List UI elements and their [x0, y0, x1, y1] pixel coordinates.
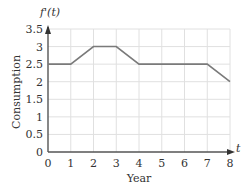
axes: [45, 25, 235, 155]
x-axis-label: Year: [126, 172, 152, 185]
y-tick-label: 0.5: [26, 128, 44, 141]
x-axis-variable-label: t: [236, 142, 241, 155]
y-tick-label: 1: [36, 111, 43, 124]
x-tick-label: 6: [181, 157, 188, 170]
x-tick-label: 8: [227, 157, 234, 170]
y-tick-label: 1.5: [26, 93, 44, 106]
x-tick-label: 0: [45, 157, 52, 170]
x-tick-label: 5: [158, 157, 165, 170]
y-tick-labels: 00.511.522.533.5: [26, 23, 44, 159]
y-tick-label: 0: [36, 146, 43, 159]
line-chart: 00.511.522.533.5 012345678 Consumption Y…: [0, 0, 248, 185]
y-tick-label: 2.5: [26, 58, 44, 71]
x-tick-label: 4: [136, 157, 143, 170]
x-tick-label: 1: [67, 157, 74, 170]
y-axis-label: Consumption: [10, 55, 23, 129]
y-axis-function-label: f'(t): [39, 6, 60, 19]
y-tick-label: 3.5: [26, 23, 44, 36]
x-tick-label: 2: [90, 157, 97, 170]
grid-lines: [48, 29, 230, 152]
y-tick-label: 3: [36, 41, 43, 54]
y-tick-label: 2: [36, 76, 43, 89]
x-tick-label: 7: [204, 157, 211, 170]
x-tick-label: 3: [113, 157, 120, 170]
x-axis-arrow-icon: [227, 149, 235, 155]
x-tick-labels: 012345678: [45, 157, 234, 170]
